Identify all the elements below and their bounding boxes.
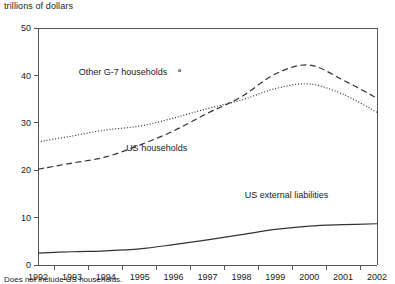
x-tick-label: 2002 (367, 272, 387, 282)
series-annotation-superscript: a (178, 67, 182, 73)
x-tick-label: 1998 (231, 272, 251, 282)
y-tick-label: 40 (21, 71, 31, 81)
y-tick-label: 20 (21, 165, 31, 175)
series-annotation-label: US households (126, 143, 188, 153)
chart-figure: trillions of dollars 0102030405019921993… (0, 0, 395, 284)
x-tick-label: 2001 (333, 272, 353, 282)
series-annotations: Other G-7 householdsaUS householdsUS ext… (79, 67, 329, 200)
x-tick-label: 1995 (130, 272, 150, 282)
line-chart-plot: 0102030405019921993199419951996199719981… (0, 0, 395, 284)
y-tick-label: 50 (21, 23, 31, 33)
series-line-other-g-7-households (38, 84, 377, 142)
series-annotation-label: US external liabilities (245, 190, 329, 200)
y-tick-label: 30 (21, 118, 31, 128)
chart-footnote: Does not include US households. (4, 275, 122, 284)
x-tick-label: 1999 (265, 272, 285, 282)
chart-frame (38, 28, 377, 265)
x-tick-label: 1996 (164, 272, 184, 282)
y-tick-label: 10 (21, 213, 31, 223)
series-line-us-households (38, 65, 377, 169)
series-annotation-label: Other G-7 households (79, 67, 168, 77)
y-tick-label: 0 (26, 260, 31, 270)
x-tick-label: 2000 (299, 272, 319, 282)
series-group (38, 65, 377, 253)
series-line-us-external-liabilities (38, 224, 377, 253)
x-tick-label: 1997 (197, 272, 217, 282)
y-axis: 01020304050 (21, 23, 38, 270)
